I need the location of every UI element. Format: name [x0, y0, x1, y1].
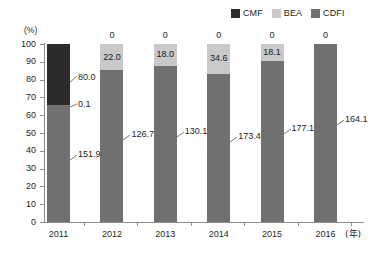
value-label-cmf-2016: 0 — [314, 31, 337, 40]
y-axis-tick — [40, 62, 45, 63]
y-axis-tick-label: 60 — [0, 111, 36, 120]
y-axis-tick — [40, 97, 45, 98]
value-label-cdfi-2014: 173.4 — [238, 132, 261, 141]
value-label-cmf-2011: 80.0 — [78, 73, 96, 82]
value-label-bea-2014: 34.6 — [207, 54, 230, 63]
bar-segment-cdfi-2011[interactable] — [47, 105, 70, 222]
value-leader-line-cdfi-2012 — [123, 135, 132, 142]
y-axis-tick-label: 70 — [0, 93, 36, 102]
x-axis-tick — [84, 222, 85, 226]
bar-group-2016[interactable] — [314, 44, 337, 222]
y-axis-tick — [40, 204, 45, 205]
legend-swatch-cmf-icon — [231, 9, 240, 18]
legend-item-cmf: CMF — [231, 9, 263, 18]
legend-label-cdfi: CDFI — [323, 9, 344, 18]
x-axis-tick — [137, 222, 138, 226]
value-label-cdfi-2011: 151.9 — [78, 150, 101, 159]
y-axis-tick — [40, 186, 45, 187]
legend-label-bea: BEA — [284, 9, 302, 18]
legend-swatch-bea-icon — [272, 9, 281, 18]
value-label-cdfi-2015: 177.1 — [292, 124, 315, 133]
y-axis-tick-label: 20 — [0, 182, 36, 191]
value-label-cdfi-2012: 126.7 — [131, 130, 154, 139]
x-axis-tick-label-2014: 2014 — [192, 229, 246, 239]
x-axis-tick — [191, 222, 192, 226]
x-axis-tick — [298, 222, 299, 226]
value-label-cdfi-2016: 164.1 — [345, 115, 368, 124]
value-label-bea-2012: 22.0 — [100, 53, 123, 62]
x-axis-tick-label-2012: 2012 — [85, 229, 139, 239]
value-label-cmf-2015: 0 — [261, 31, 284, 40]
bar-group-2012[interactable] — [100, 44, 123, 222]
value-label-cmf-2013: 0 — [154, 31, 177, 40]
value-leader-line-cdfi-2013 — [177, 132, 186, 139]
value-label-bea-2013: 18.0 — [154, 50, 177, 59]
y-axis-tick-label: 100 — [0, 40, 36, 49]
value-leader-line-bea-2011 — [70, 104, 79, 109]
value-label-bea-2015: 18.1 — [261, 48, 284, 57]
y-axis-tick — [40, 80, 45, 81]
bar-segment-cdfi-2014[interactable] — [207, 74, 230, 222]
y-axis-unit-label: (%) — [24, 25, 37, 35]
bar-segment-cdfi-2013[interactable] — [154, 66, 177, 222]
value-label-cmf-2014: 0 — [207, 31, 230, 40]
y-axis-tick-label: 30 — [0, 164, 36, 173]
y-axis-tick — [40, 133, 45, 134]
bar-segment-cdfi-2015[interactable] — [261, 61, 284, 222]
bar-segment-cdfi-2016[interactable] — [314, 44, 337, 222]
legend-item-cdfi: CDFI — [311, 9, 344, 18]
x-axis-line — [44, 222, 364, 223]
y-axis-tick-label: 10 — [0, 200, 36, 209]
value-leader-line-cmf-2011 — [70, 76, 79, 84]
legend-swatch-cdfi-icon — [311, 9, 320, 18]
bar-segment-cdfi-2012[interactable] — [100, 70, 123, 222]
value-label-cmf-2012: 0 — [100, 31, 123, 40]
bar-group-2014[interactable] — [207, 44, 230, 222]
y-axis-tick — [40, 222, 45, 223]
y-axis-tick-label: 50 — [0, 129, 36, 138]
x-axis-unit-label: (年) — [345, 229, 361, 239]
value-leader-line-cdfi-2011 — [70, 155, 79, 162]
value-label-bea-2011: 0.1 — [78, 100, 91, 109]
value-leader-line-cdfi-2016 — [337, 120, 346, 127]
y-axis-tick — [40, 151, 45, 152]
y-axis-tick-label: 80 — [0, 75, 36, 84]
legend-item-bea: BEA — [272, 9, 302, 18]
y-axis-tick — [40, 44, 45, 45]
legend-label-cmf: CMF — [243, 9, 263, 18]
x-axis-tick-label-2013: 2013 — [138, 229, 192, 239]
y-axis-tick-label: 40 — [0, 146, 36, 155]
y-axis-tick-label: 90 — [0, 57, 36, 66]
value-leader-line-cdfi-2015 — [284, 129, 293, 136]
y-axis-tick-label: 0 — [0, 218, 36, 227]
x-axis-tick — [351, 222, 352, 226]
y-axis-tick — [40, 115, 45, 116]
y-axis-tick — [40, 169, 45, 170]
x-axis-tick-label-2011: 2011 — [32, 229, 86, 239]
x-axis-tick-label-2015: 2015 — [245, 229, 299, 239]
value-label-cdfi-2013: 130.1 — [185, 127, 208, 136]
bar-group-2015[interactable] — [261, 44, 284, 222]
bar-group-2013[interactable] — [154, 44, 177, 222]
bar-segment-cmf-2011[interactable] — [47, 44, 70, 105]
chart-legend: CMF BEA CDFI — [231, 9, 345, 18]
stacked-bar-chart: CMF BEA CDFI (%) 1009080706050403020100 … — [0, 0, 376, 253]
x-axis-tick — [244, 222, 245, 226]
value-leader-line-cdfi-2014 — [230, 137, 239, 144]
bar-group-2011[interactable] — [47, 44, 70, 222]
